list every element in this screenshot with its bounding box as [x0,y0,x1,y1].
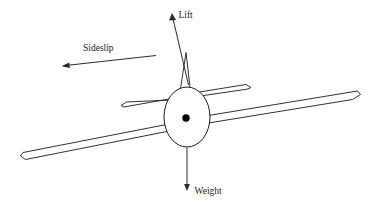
sideslip-label: Sideslip [83,43,114,53]
sideslip-vector: Sideslip [62,43,157,69]
lift-label: Lift [179,10,194,20]
weight-vector: Weight [184,148,222,197]
aircraft-force-diagram: Lift Sideslip Weight [0,0,370,209]
lift-vector: Lift [169,10,193,86]
right-wing [187,91,361,127]
weight-label: Weight [195,186,223,196]
left-wing [21,121,188,160]
center-of-gravity-dot [182,114,189,121]
